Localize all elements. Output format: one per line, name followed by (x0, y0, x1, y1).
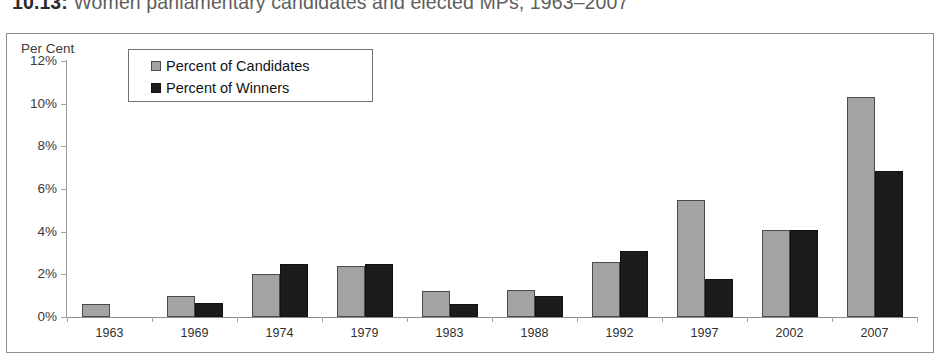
legend-swatch-winners-icon (151, 83, 161, 93)
y-axis-tick-label: 2% (13, 266, 57, 281)
bar-candidates (167, 296, 195, 317)
bar-winners (790, 230, 818, 317)
bar-group (847, 61, 903, 317)
x-axis-tick (917, 317, 918, 322)
bar-winners (705, 279, 733, 317)
y-axis-tick (61, 274, 67, 275)
bar-candidates (507, 290, 535, 317)
chart-frame: Per Cent 0%2%4%6%8%10%12% Percent of Can… (6, 33, 934, 353)
y-axis-tick (61, 104, 67, 105)
x-axis-tick-label: 2002 (745, 326, 835, 340)
y-axis-tick (61, 189, 67, 190)
legend-label-winners: Percent of Winners (166, 80, 289, 96)
bar-group (507, 61, 563, 317)
bar-winners (535, 296, 563, 317)
legend-item-winners: Percent of Winners (151, 78, 289, 98)
bar-candidates (252, 274, 280, 317)
bar-candidates (762, 230, 790, 317)
bar-candidates (592, 262, 620, 317)
x-axis-tick-label: 1974 (235, 326, 325, 340)
bar-winners (450, 304, 478, 317)
x-axis-tick (492, 317, 493, 322)
y-axis-labels: 0%2%4%6%8%10%12% (7, 34, 57, 354)
bar-winners (875, 171, 903, 317)
x-axis-tick (832, 317, 833, 322)
bar-group (762, 61, 818, 317)
x-axis-tick (237, 317, 238, 322)
x-axis-tick (322, 317, 323, 322)
y-axis-tick-label: 6% (13, 181, 57, 196)
bar-group (677, 61, 733, 317)
x-axis-tick-label: 1992 (575, 326, 665, 340)
y-axis-tick-label: 4% (13, 224, 57, 239)
x-axis-tick-label: 1988 (490, 326, 580, 340)
y-axis-tick-label: 10% (13, 96, 57, 111)
bar-winners (280, 264, 308, 317)
y-axis-tick (61, 61, 67, 62)
legend-item-candidates: Percent of Candidates (151, 56, 309, 76)
y-axis-tick (61, 146, 67, 147)
x-axis-tick-label: 2007 (830, 326, 920, 340)
bar-group (592, 61, 648, 317)
bar-candidates (82, 304, 110, 317)
figure-caption: 10.13: Women parliamentary candidates an… (12, 0, 932, 19)
bar-winners (620, 251, 648, 317)
x-axis-tick (747, 317, 748, 322)
x-axis-tick-label: 1997 (660, 326, 750, 340)
y-axis-tick-label: 0% (13, 309, 57, 324)
x-axis-tick (577, 317, 578, 322)
bar-candidates (422, 291, 450, 317)
x-axis-tick (662, 317, 663, 322)
y-axis-tick (61, 232, 67, 233)
bar-candidates (847, 97, 875, 317)
x-axis-tick-label: 1969 (150, 326, 240, 340)
legend-label-candidates: Percent of Candidates (166, 58, 309, 74)
x-axis-tick-label: 1963 (65, 326, 155, 340)
bar-winners (365, 264, 393, 317)
figure-caption-text: Women parliamentary candidates and elect… (73, 0, 628, 13)
bar-candidates (677, 200, 705, 317)
x-axis-tick (67, 317, 68, 322)
x-axis-tick (152, 317, 153, 322)
x-axis-tick (407, 317, 408, 322)
bar-candidates (337, 266, 365, 317)
y-axis-tick-label: 8% (13, 138, 57, 153)
x-axis-tick-label: 1979 (320, 326, 410, 340)
bar-winners (195, 303, 223, 317)
figure-number: 10.13: (12, 0, 68, 13)
chart-legend: Percent of Candidates Percent of Winners (128, 49, 373, 102)
bar-group (422, 61, 478, 317)
legend-swatch-candidates-icon (151, 61, 161, 71)
y-axis-tick-label: 12% (13, 53, 57, 68)
x-axis-tick-label: 1983 (405, 326, 495, 340)
